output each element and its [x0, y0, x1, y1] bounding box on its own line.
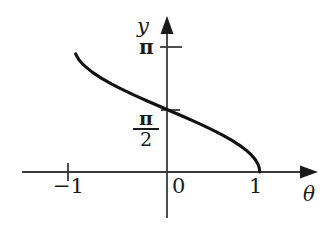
- figure-canvas: y θ π π 2 −1 0 1: [0, 0, 334, 232]
- y-tick-label-pi-over-2: π 2: [133, 110, 159, 148]
- x-axis-arrowhead: [300, 166, 318, 179]
- x-axis-label: θ: [303, 184, 315, 204]
- x-tick-label-neg-one: −1: [53, 176, 84, 197]
- x-tick-label-one: 1: [249, 176, 262, 197]
- y-axis-arrowhead: [161, 16, 174, 34]
- x-tick-label-zero: 0: [172, 176, 185, 197]
- fraction-numerator: π: [133, 110, 159, 127]
- plot-svg: [0, 0, 334, 232]
- y-axis-label: y: [137, 16, 149, 37]
- fraction-denominator: 2: [133, 131, 159, 148]
- y-tick-label-pi: π: [139, 37, 154, 57]
